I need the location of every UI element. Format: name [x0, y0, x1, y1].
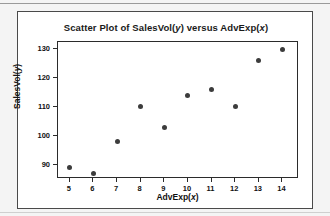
x-axis-tick-mark	[281, 178, 282, 182]
x-axis-tick-mark	[116, 178, 117, 182]
y-axis-tick-label: 100	[37, 130, 50, 139]
x-axis-label-prefix: AdvExp(	[156, 192, 190, 202]
x-axis-label: AdvExp(x)	[57, 192, 298, 202]
x-axis-tick-mark	[187, 178, 188, 182]
data-point	[256, 58, 261, 63]
data-point	[67, 165, 72, 170]
data-point	[138, 104, 143, 109]
x-axis-tick-mark	[258, 178, 259, 182]
x-axis-tick-mark	[211, 178, 212, 182]
data-point	[162, 125, 167, 130]
figure-container: Scatter Plot of SalesVol(y) versus AdvEx…	[17, 11, 313, 209]
data-point	[91, 171, 96, 176]
y-axis-tick-label: 120	[37, 73, 50, 82]
x-axis-tick-mark	[234, 178, 235, 182]
data-point	[280, 47, 285, 52]
page-background: Scatter Plot of SalesVol(y) versus AdvEx…	[0, 0, 330, 216]
y-axis-tick-label: 130	[37, 44, 50, 53]
data-point	[115, 139, 120, 144]
plot-area	[57, 41, 298, 178]
y-axis-tick-label: 110	[38, 101, 50, 110]
x-axis-label-suffix: )	[196, 192, 199, 202]
x-axis-tick-mark	[69, 178, 70, 182]
data-point	[185, 93, 190, 98]
x-axis-tick-mark	[140, 178, 141, 182]
x-axis-tick-mark	[92, 178, 93, 182]
y-axis-tick-label: 90	[42, 159, 50, 168]
page-top-rule	[0, 3, 330, 4]
x-axis-tick-mark	[163, 178, 164, 182]
data-point	[209, 87, 214, 92]
page-bottom-rule	[0, 212, 330, 213]
data-point	[233, 104, 238, 109]
